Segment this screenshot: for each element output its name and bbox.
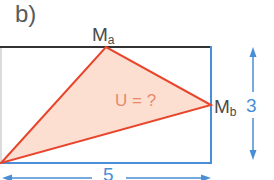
- point-subscript: b: [230, 105, 237, 119]
- point-label-mb: Mb: [214, 97, 237, 118]
- point-label-ma: Ma: [92, 25, 115, 46]
- geometry-figure: b) Ma Mb U = ? 3 5: [0, 0, 274, 180]
- part-label: b): [15, 2, 36, 26]
- triangle-fill: [1, 47, 211, 163]
- diagram-canvas: [0, 0, 274, 180]
- triangle-perimeter-label: U = ?: [115, 92, 156, 109]
- point-subscript: a: [108, 33, 115, 47]
- point-letter: M: [214, 96, 230, 117]
- width-dimension-label: 5: [103, 165, 114, 180]
- point-letter: M: [92, 24, 108, 45]
- height-dimension-label: 3: [246, 96, 257, 115]
